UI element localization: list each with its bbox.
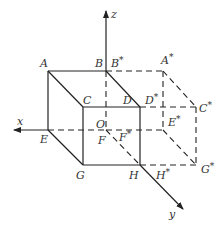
vertex-label-Dstar: D* — [144, 92, 159, 107]
axis-label-z: z — [110, 8, 117, 21]
vertex-label-D: D — [122, 94, 132, 107]
vertex-label-G: G — [76, 169, 85, 182]
vertex-label-Hstar: H* — [155, 167, 171, 182]
vertex-label-Estar: E* — [167, 114, 181, 129]
vertex-label-A: A — [39, 57, 48, 70]
vertex-label-Astar: A* — [160, 52, 174, 67]
vertex-label-Cstar: C* — [199, 100, 212, 115]
vertex-label-Fstar: F* — [118, 129, 132, 144]
axis-label-x: x — [17, 115, 24, 128]
vertex-label-E: E — [39, 133, 48, 146]
vertex-label-Gstar: G* — [201, 161, 215, 176]
edge-E-G — [48, 130, 83, 165]
cube-diagram: z x y A B C D E O F G H B* A* D* C* E* F… — [0, 0, 222, 228]
edge-A-C — [48, 71, 83, 107]
vertex-label-C: C — [83, 94, 92, 107]
edge-Estar-Gstar — [163, 130, 196, 165]
vertex-label-Bstar: B* — [110, 55, 124, 70]
axis-label-y: y — [168, 208, 176, 221]
vertex-label-F: F — [97, 134, 106, 147]
edge-Astar-Cstar — [163, 71, 196, 107]
vertex-label-O: O — [96, 118, 105, 131]
vertex-label-H: H — [128, 169, 139, 182]
vertex-label-B: B — [94, 57, 103, 70]
